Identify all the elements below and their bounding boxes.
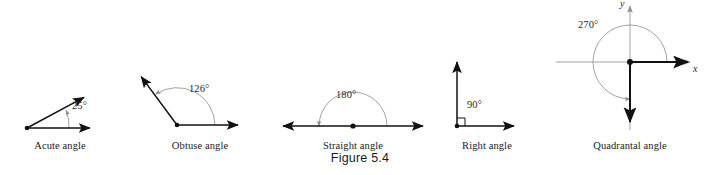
panel-label-right-angle: Right angle — [462, 140, 512, 151]
acute-angle-value: 25° — [72, 100, 87, 111]
y-axis-label: y — [620, 0, 624, 9]
obtuse-terminal-side-ray — [141, 77, 177, 125]
obtuse-angle-value: 126° — [189, 83, 209, 94]
panel-label-obtuse-angle: Obtuse angle — [172, 140, 228, 151]
quadrantal-origin-dot — [627, 59, 633, 65]
acute-angle-arc — [66, 110, 69, 128]
quadrantal-angle-value: 270° — [578, 19, 598, 30]
figure-caption: Figure 5.4 — [0, 151, 720, 165]
acute-vertex-dot — [25, 126, 30, 131]
x-axis-label: x — [693, 63, 697, 74]
straight-angle-value: 180° — [336, 89, 356, 100]
panel-quadrantal-angle — [556, 6, 690, 130]
right-vertex-dot — [455, 124, 460, 129]
right-angle-value: 90° — [467, 99, 482, 110]
panel-label-straight-angle: Straight angle — [323, 140, 383, 151]
figure-5-4: 25° 126° 180° 90° 270° x y Acute angle O… — [0, 0, 720, 175]
panel-label-acute-angle: Acute angle — [34, 140, 86, 151]
straight-vertex-dot — [350, 123, 355, 128]
obtuse-vertex-dot — [175, 123, 180, 128]
panel-label-quadrantal-angle: Quadrantal angle — [593, 140, 667, 151]
panel-right-angle — [455, 62, 514, 128]
